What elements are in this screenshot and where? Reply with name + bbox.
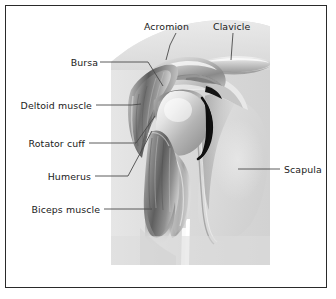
label-acromion: Acromion [144,21,189,32]
anatomy-illustration [0,0,336,299]
label-clavicle: Clavicle [213,21,250,32]
figure-container: Acromion Clavicle Bursa Deltoid muscle R… [0,0,336,299]
label-bursa: Bursa [20,57,98,68]
label-biceps-muscle: Biceps muscle [10,204,100,215]
label-scapula: Scapula [284,164,322,175]
label-deltoid-muscle: Deltoid muscle [10,100,92,111]
label-humerus: Humerus [16,171,91,182]
label-rotator-cuff: Rotator cuff [10,138,85,149]
